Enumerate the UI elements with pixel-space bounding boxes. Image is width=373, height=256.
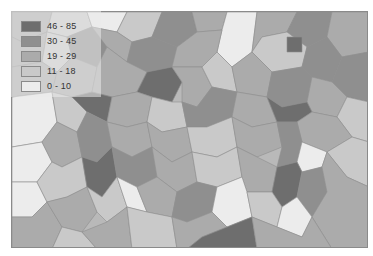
legend-label: 30 - 45 <box>47 36 76 46</box>
map-region <box>107 92 152 127</box>
legend-swatch <box>21 36 41 47</box>
legend-label: 46 - 85 <box>47 21 76 31</box>
map-region <box>267 67 312 107</box>
legend-swatch <box>21 66 41 77</box>
legend-swatch <box>21 21 41 32</box>
legend-label: 19 - 29 <box>47 51 76 61</box>
legend-label: 0 - 10 <box>47 81 71 91</box>
legend-item-class-1: 11 - 18 <box>21 64 76 78</box>
legend-label: 11 - 18 <box>47 66 76 76</box>
legend-item-class-2: 19 - 29 <box>21 49 76 63</box>
map-region <box>192 12 227 32</box>
legend-swatch <box>21 81 41 92</box>
map-legend: 46 - 85 30 - 45 19 - 29 11 - 18 0 - 10 <box>11 11 101 97</box>
legend-item-class-4: 46 - 85 <box>21 19 76 33</box>
legend-item-class-3: 30 - 45 <box>21 34 76 48</box>
legend-swatch <box>21 51 41 62</box>
legend-item-class-0: 0 - 10 <box>21 79 71 93</box>
map-region <box>287 37 302 52</box>
